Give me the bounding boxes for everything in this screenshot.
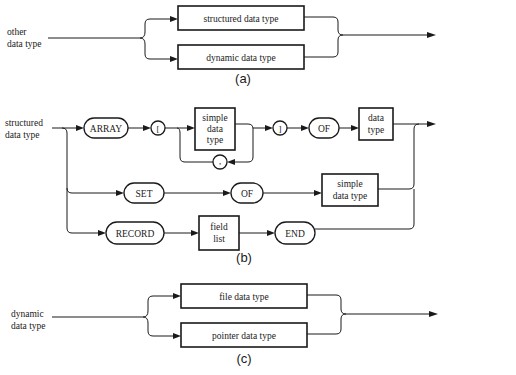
- arrow-head-icon: [98, 230, 106, 236]
- arrow-head-icon: [187, 125, 195, 131]
- keyword-label: RECORD: [116, 229, 155, 239]
- loop-back-right: [233, 124, 253, 162]
- branch-set: [67, 188, 116, 193]
- box-label: dynamic data type: [206, 53, 276, 63]
- box-label: simple: [337, 179, 362, 189]
- label-data-type: data type: [7, 39, 42, 49]
- arrow-head-icon: [191, 230, 199, 236]
- diagram-a-other-data-type: other data type structured data type dyn…: [7, 6, 436, 86]
- label-data-type: data type: [5, 130, 40, 140]
- merge-upper: [304, 17, 343, 35]
- box-label: structured data type: [204, 14, 279, 24]
- box-label: file data type: [219, 292, 269, 302]
- caption-a: (a): [235, 71, 251, 86]
- arrow-head-icon: [223, 190, 231, 196]
- arrow-head-icon: [427, 32, 436, 38]
- branch-upper: [143, 296, 173, 317]
- fork-trunk: [52, 128, 72, 233]
- branch-lower: [140, 38, 172, 59]
- merge-lower: [307, 314, 346, 334]
- box-label: pointer data type: [212, 331, 276, 341]
- diagram-b-structured-data-type: structured data type ARRAY [ simple data…: [5, 108, 436, 265]
- keyword-label: END: [285, 229, 305, 239]
- box-label: type: [207, 135, 223, 145]
- arrow-head-icon: [170, 16, 178, 22]
- diagram-c-dynamic-data-type: dynamic data type file data type pointer…: [11, 284, 438, 366]
- arrow-head-icon: [351, 125, 359, 131]
- arrow-head-icon: [265, 125, 273, 131]
- keyword-label: ARRAY: [90, 124, 123, 134]
- symbol-label: ]: [279, 124, 282, 134]
- box-label: type: [368, 125, 384, 135]
- arrow-head-icon: [227, 159, 235, 165]
- symbol-label: [: [157, 124, 160, 134]
- label-other: other: [7, 27, 27, 37]
- label-dynamic: dynamic: [11, 309, 44, 319]
- arrow-head-icon: [143, 125, 151, 131]
- keyword-label: OF: [241, 189, 253, 199]
- arrow-head-icon: [267, 230, 275, 236]
- merge-upper: [307, 295, 346, 314]
- box-label: data: [207, 124, 224, 134]
- label-structured: structured: [5, 118, 43, 128]
- box-label: data type: [333, 191, 368, 201]
- arrow-head-icon: [429, 311, 438, 317]
- arrow-head-icon: [301, 125, 309, 131]
- box-label: data: [368, 113, 385, 123]
- caption-b: (b): [236, 250, 252, 265]
- branch-upper: [140, 19, 172, 38]
- box-label: simple: [202, 113, 227, 123]
- arrow-head-icon: [427, 121, 436, 127]
- arrow-head-icon: [314, 190, 322, 196]
- box-label: list: [213, 234, 225, 244]
- arrow-head-icon: [116, 190, 124, 196]
- box-label: field: [210, 222, 228, 232]
- keyword-label: OF: [318, 124, 330, 134]
- caption-c: (c): [236, 351, 251, 366]
- arrow-head-icon: [173, 333, 181, 339]
- symbol-label: ,: [219, 156, 221, 166]
- keyword-label: SET: [136, 189, 153, 199]
- label-data-type: data type: [11, 321, 46, 331]
- arrow-head-icon: [170, 56, 178, 62]
- arrow-head-icon: [76, 125, 84, 131]
- syntax-diagrams: other data type structured data type dyn…: [0, 0, 516, 375]
- arrow-head-icon: [173, 293, 181, 299]
- merge-lower: [304, 35, 343, 57]
- branch-lower: [143, 317, 173, 336]
